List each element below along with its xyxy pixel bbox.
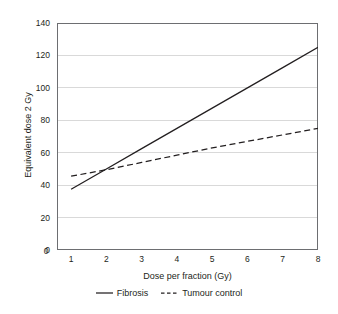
- legend-label: Tumour control: [182, 288, 242, 298]
- legend-item[interactable]: Fibrosis: [96, 288, 149, 298]
- legend-label: Fibrosis: [117, 288, 149, 298]
- origin-label: 0: [36, 246, 56, 256]
- x-tick-label: 4: [167, 254, 187, 264]
- y-tick-label: 60: [41, 148, 50, 158]
- chart-figure: Equivalent dose 2 Gy 020406080100120140 …: [0, 0, 338, 314]
- chart-legend: FibrosisTumour control: [0, 288, 338, 298]
- x-tick-label: 1: [61, 254, 81, 264]
- y-tick-label: 140: [36, 18, 50, 28]
- y-axis-title: Equivalent dose 2 Gy: [23, 60, 33, 210]
- plot-svg: [57, 23, 318, 250]
- x-tick-label: 7: [273, 254, 293, 264]
- y-tick-label: 100: [36, 83, 50, 93]
- x-tick-label: 2: [96, 254, 116, 264]
- plot-area: 020406080100120140 12345678 0: [57, 23, 318, 250]
- x-tick-label: 8: [308, 254, 328, 264]
- solid-line-icon: [96, 290, 113, 296]
- gridlines: [57, 23, 318, 218]
- x-tick-label: 3: [132, 254, 152, 264]
- y-tick-label: 80: [41, 115, 50, 125]
- plot-frame: [57, 23, 318, 250]
- x-axis-title: Dose per fraction (Gy): [57, 271, 318, 281]
- axis-ticks: [57, 23, 318, 250]
- y-tick-label: 40: [41, 180, 50, 190]
- y-tick-label: 20: [41, 213, 50, 223]
- dashed-line-icon: [161, 290, 178, 296]
- data-series: [71, 47, 318, 189]
- y-tick-label: 120: [36, 50, 50, 60]
- legend-item[interactable]: Tumour control: [161, 288, 242, 298]
- x-tick-label: 5: [202, 254, 222, 264]
- x-tick-label: 6: [237, 254, 257, 264]
